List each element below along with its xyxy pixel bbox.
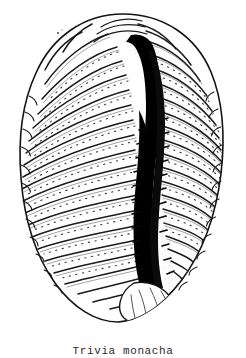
illustration-plate: Trivia monacha [0, 0, 246, 358]
figure-caption: Trivia monacha [0, 345, 246, 358]
shell-body [18, 14, 223, 327]
shell-drawing-svg [0, 0, 246, 332]
shell-illustration [0, 0, 246, 332]
